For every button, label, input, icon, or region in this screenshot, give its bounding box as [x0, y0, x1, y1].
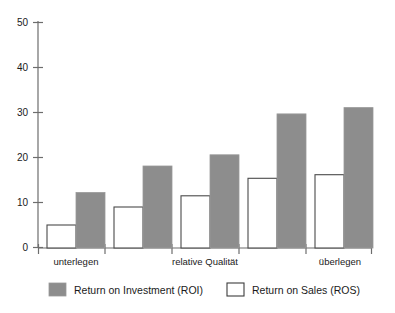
x-label-ueberlegen: überlegen [319, 256, 361, 267]
y-axis-labels: 50 40 30 20 10 0 [17, 17, 29, 253]
bar-group-1 [47, 193, 105, 249]
x-label-unterlegen: unterlegen [54, 256, 99, 267]
y-tick-label-30: 30 [17, 107, 29, 118]
bar-ros-4 [248, 178, 277, 248]
y-tick-label-20: 20 [17, 152, 29, 163]
y-tick-label-10: 10 [17, 197, 29, 208]
bar-group-4 [248, 114, 306, 248]
bar-chart: 50 40 30 20 10 0 [0, 0, 395, 313]
bar-ros-3 [181, 196, 210, 248]
bar-roi-2 [143, 166, 172, 248]
bar-ros-2 [114, 207, 143, 248]
y-tick-label-0: 0 [22, 242, 28, 253]
legend-label-roi: Return on Investment (ROI) [74, 284, 203, 296]
chart-canvas: 50 40 30 20 10 0 [0, 0, 395, 313]
y-tick-label-50: 50 [17, 17, 29, 28]
chart-legend: Return on Investment (ROI) Return on Sal… [49, 283, 360, 296]
bar-roi-3 [210, 155, 239, 248]
legend-swatch-roi [49, 283, 66, 296]
bar-roi-1 [76, 193, 105, 249]
bar-roi-5 [344, 108, 373, 248]
x-axis-labels: unterlegen relative Qualität überlegen [54, 256, 362, 267]
bar-group-5 [315, 108, 373, 248]
y-tick-label-40: 40 [17, 62, 29, 73]
legend-swatch-ros [227, 283, 244, 296]
bar-ros-5 [315, 175, 344, 248]
x-label-relative-qualitaet: relative Qualität [172, 256, 238, 267]
bar-group-2 [114, 166, 172, 248]
bar-roi-4 [277, 114, 306, 248]
plot-area: 50 40 30 20 10 0 [0, 0, 395, 313]
bar-group-3 [181, 155, 239, 248]
bar-ros-1 [47, 225, 76, 248]
legend-label-ros: Return on Sales (ROS) [252, 284, 360, 296]
